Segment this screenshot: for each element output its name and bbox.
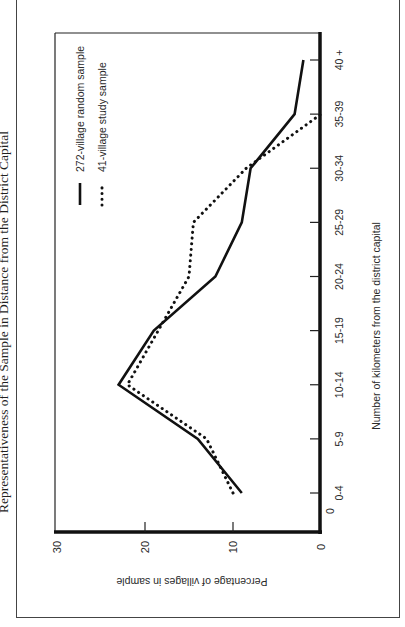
y-tick-label: 30 (51, 541, 63, 553)
x-axis-origin-label: 0 (324, 508, 336, 514)
legend: 272-village random sample41-village stud… (74, 46, 108, 205)
x-tick-label: 20-24 (333, 263, 345, 290)
legend-label: 41-village study sample (96, 62, 108, 172)
y-axis-title: Percentage of villages in sample (116, 576, 267, 588)
series-line-random-sample (119, 60, 304, 493)
y-tick-label: 0 (315, 544, 327, 550)
x-tick-label: 0-4 (333, 485, 345, 500)
y-tick-label: 20 (139, 541, 151, 553)
x-tick-label: 5-9 (333, 431, 345, 446)
x-tick-label: 10-14 (333, 371, 345, 398)
series-line-study-sample (127, 114, 321, 493)
x-tick-label: 30-34 (333, 155, 345, 182)
series-layer (119, 60, 321, 493)
y-axis-ticks: 0102030 (51, 522, 327, 553)
x-tick-label: 15-19 (333, 317, 345, 344)
x-tick-label: 35-39 (333, 101, 345, 128)
chart-title: Representativeness of the Sample in Dist… (0, 131, 11, 513)
chart: Representativeness of the Sample in Dist… (0, 0, 405, 627)
x-tick-label: 40 + (333, 50, 345, 71)
x-axis-title: Number of kilometers from the district c… (370, 222, 382, 430)
x-tick-label: 25-29 (333, 209, 345, 236)
legend-label: 272-village random sample (74, 46, 86, 172)
y-tick-label: 10 (227, 541, 239, 553)
